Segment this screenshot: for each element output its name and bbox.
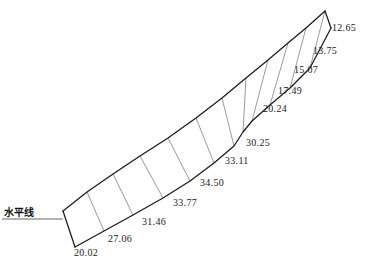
dimension-label-15-07: 15.07 (294, 64, 318, 75)
rib-line-1 (87, 192, 104, 231)
rib-line-5 (196, 118, 214, 163)
left-end-cap (63, 211, 75, 247)
lower-boundary (75, 28, 331, 247)
rib-line-6 (222, 98, 234, 146)
dimension-label-13-75: 13.75 (313, 45, 337, 56)
dimension-label-27-06: 27.06 (108, 233, 132, 244)
dimension-label-30-25: 30.25 (246, 137, 270, 148)
rib-line-11 (310, 11, 325, 68)
dimension-label-20-24: 20.24 (263, 103, 287, 114)
dimension-label-34-50: 34.50 (200, 177, 224, 188)
rib-line-7 (243, 78, 246, 132)
rib-line-4 (168, 138, 190, 181)
rib-line-10 (290, 28, 306, 88)
dimension-label-33-77: 33.77 (173, 197, 197, 208)
rib-line-2 (113, 174, 133, 215)
dimension-label-17-49: 17.49 (278, 85, 302, 96)
rib-lines (87, 11, 325, 231)
dimension-label-12-65: 12.65 (332, 22, 356, 33)
dimension-label-33-11: 33.11 (225, 155, 249, 166)
dimension-label-20-02: 20.02 (74, 247, 98, 258)
dimension-label-31-46: 31.46 (142, 216, 166, 227)
section-figure (0, 0, 366, 269)
right-end-cap (325, 11, 331, 28)
datum-line-label: 水平线 (4, 204, 34, 219)
diagram-canvas: 水平线 20.02 27.06 31.46 33.77 34.50 33.11 … (0, 0, 366, 269)
rib-line-3 (140, 156, 163, 198)
